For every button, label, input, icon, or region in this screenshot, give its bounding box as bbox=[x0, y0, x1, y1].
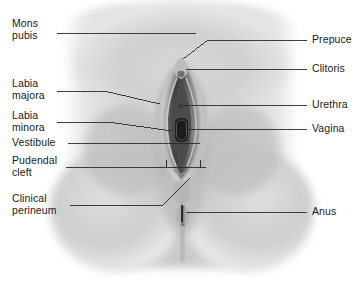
label-labia-minora-line2: minora bbox=[12, 121, 45, 133]
label-vestibule: Vestibule bbox=[12, 137, 56, 149]
label-vestibule-line1: Vestibule bbox=[12, 136, 56, 148]
label-mons-pubis: Monspubis bbox=[12, 18, 38, 41]
label-anus: Anus bbox=[312, 206, 336, 218]
label-labia-majora-line1: Labia bbox=[12, 77, 38, 89]
label-clinical-perineum: Clinicalperineum bbox=[12, 193, 57, 216]
label-pudendal-cleft: Pudendalcleft bbox=[12, 155, 57, 178]
label-labia-minora: Labiaminora bbox=[12, 110, 45, 133]
clitoris bbox=[177, 71, 184, 77]
label-clitoris-line1: Clitoris bbox=[312, 62, 345, 74]
label-mons-pubis-line1: Mons bbox=[12, 17, 38, 29]
label-prepuce: Prepuce bbox=[312, 34, 352, 46]
label-prepuce-line1: Prepuce bbox=[312, 33, 352, 45]
label-vagina: Vagina bbox=[312, 123, 345, 135]
label-vagina-line1: Vagina bbox=[312, 122, 345, 134]
label-urethra-line1: Urethra bbox=[312, 98, 348, 110]
label-clinical-perineum-line2: perineum bbox=[12, 204, 57, 216]
label-urethra: Urethra bbox=[312, 99, 348, 111]
label-pudendal-cleft-line2: cleft bbox=[12, 166, 32, 178]
label-clinical-perineum-line1: Clinical bbox=[12, 192, 47, 204]
label-labia-minora-line1: Labia bbox=[12, 109, 38, 121]
urethral-orifice bbox=[178, 104, 183, 108]
label-labia-majora-line2: majora bbox=[12, 89, 45, 101]
label-pudendal-cleft-line1: Pudendal bbox=[12, 154, 57, 166]
label-labia-majora: Labiamajora bbox=[12, 78, 45, 101]
label-mons-pubis-line2: pubis bbox=[12, 29, 38, 41]
label-anus-line1: Anus bbox=[312, 205, 336, 217]
label-clitoris: Clitoris bbox=[312, 63, 345, 75]
